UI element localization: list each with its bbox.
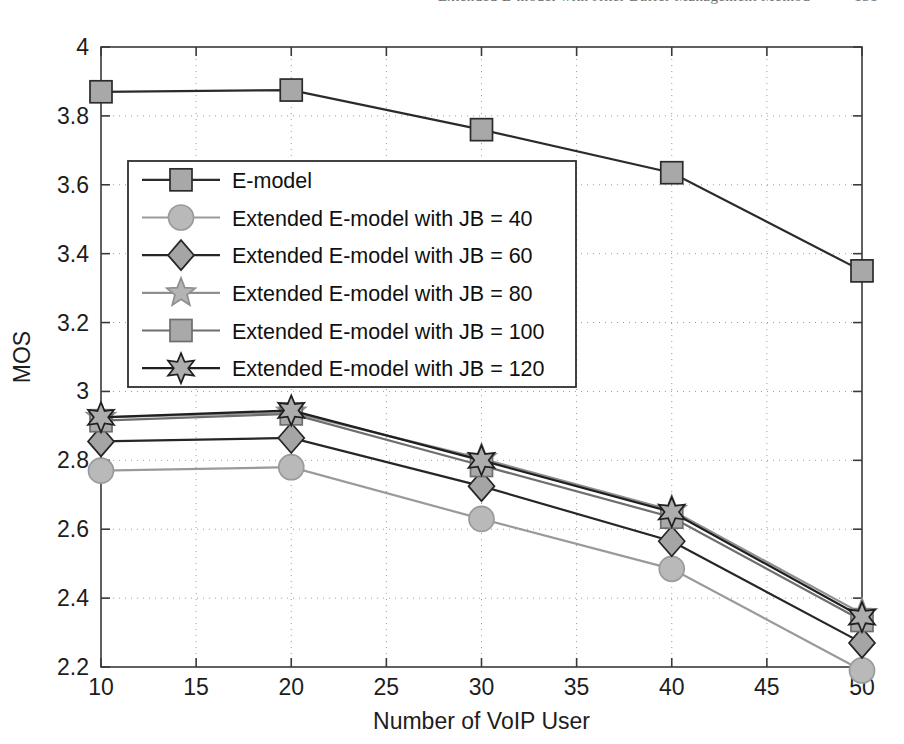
x-tick-label: 15 <box>183 674 209 700</box>
legend-label: Extended E-model with JB = 80 <box>232 282 533 306</box>
legend-marker-icon <box>170 169 192 191</box>
series-marker <box>89 458 114 483</box>
legend-label: Extended E-model with JB = 60 <box>232 244 533 268</box>
y-tick-label: 3.2 <box>57 310 89 336</box>
x-tick-label: 30 <box>469 674 495 700</box>
x-tick-label: 10 <box>88 674 114 700</box>
y-tick-label: 4 <box>76 34 89 60</box>
legend-label: E-model <box>232 169 312 193</box>
y-tick-label: 2.2 <box>57 654 89 680</box>
series-marker <box>659 526 685 556</box>
y-tick-label: 2.8 <box>57 447 89 473</box>
series-marker <box>279 455 304 480</box>
y-tick-label: 2.6 <box>57 516 89 542</box>
legend-label: Extended E-model with JB = 120 <box>232 357 545 381</box>
y-tick-label: 2.4 <box>57 585 89 611</box>
series-marker <box>851 260 873 282</box>
x-tick-label: 20 <box>278 674 304 700</box>
series-marker <box>659 556 684 581</box>
series-marker <box>90 81 112 103</box>
series-marker <box>471 119 493 141</box>
x-axis-title: Number of VoIP User <box>373 708 590 734</box>
legend-marker-icon <box>169 205 194 230</box>
x-tick-label: 40 <box>659 674 685 700</box>
y-axis-title: MOS <box>9 331 35 383</box>
legend-label: Extended E-model with JB = 100 <box>232 320 545 344</box>
y-tick-label: 3.8 <box>57 103 89 129</box>
series-marker <box>469 506 494 531</box>
legend-label: Extended E-model with JB = 40 <box>232 207 533 231</box>
y-tick-label: 3 <box>76 378 89 404</box>
mos-line-chart: 1015202530354045502.22.42.62.833.23.43.6… <box>0 0 904 744</box>
series-marker <box>661 162 683 184</box>
legend-box[interactable] <box>128 161 576 387</box>
chart-canvas: 1015202530354045502.22.42.62.833.23.43.6… <box>0 0 904 744</box>
chart-legend[interactable]: E-modelExtended E-model with JB = 40Exte… <box>128 161 576 387</box>
x-tick-label: 45 <box>754 674 780 700</box>
y-tick-label: 3.6 <box>57 172 89 198</box>
series-marker <box>280 79 302 101</box>
legend-marker-icon <box>170 320 192 342</box>
series-marker <box>850 658 875 683</box>
y-tick-label: 3.4 <box>57 241 89 267</box>
x-tick-label: 35 <box>564 674 590 700</box>
x-tick-label: 25 <box>374 674 400 700</box>
